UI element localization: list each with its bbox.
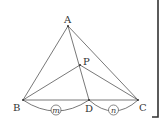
segment-AB: [23, 26, 68, 100]
label-C: C: [139, 102, 147, 113]
segment-BP: [23, 65, 80, 100]
point-P: [79, 64, 81, 66]
ratio-m-label: m: [52, 106, 60, 115]
right-bracket: [152, 0, 158, 117]
point-B: [22, 99, 24, 101]
label-P: P: [83, 56, 90, 67]
label-D: D: [85, 103, 93, 114]
point-C: [137, 99, 139, 101]
label-B: B: [13, 102, 20, 113]
point-D: [88, 99, 90, 101]
segment-PC: [80, 65, 138, 100]
point-A: [67, 25, 69, 27]
label-A: A: [63, 14, 72, 25]
triangle-diagram: m n A P B D C: [0, 0, 167, 126]
ratio-n-label: n: [111, 106, 116, 115]
